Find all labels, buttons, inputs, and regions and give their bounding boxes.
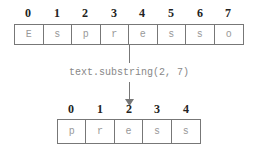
char-cell: s xyxy=(143,120,171,143)
index-label: 1 xyxy=(86,102,114,117)
index-label: 2 xyxy=(115,102,143,117)
source-string-array: E s p r e s s o xyxy=(14,24,244,45)
char-cell: s xyxy=(186,25,215,44)
operation-label: text.substring(2, 7) xyxy=(49,67,209,78)
connector-line xyxy=(129,45,130,63)
char-cell: e xyxy=(115,120,143,143)
index-label: 1 xyxy=(43,6,71,21)
index-label: 6 xyxy=(186,6,214,21)
char-cell: E xyxy=(15,25,44,44)
index-label: 0 xyxy=(57,102,85,117)
char-cell: s xyxy=(172,120,200,143)
char-cell: o xyxy=(215,25,244,44)
char-cell: p xyxy=(58,120,86,143)
char-cell: r xyxy=(86,120,114,143)
index-label: 3 xyxy=(100,6,128,21)
char-cell: s xyxy=(44,25,73,44)
result-string-array: p r e s s xyxy=(57,119,201,144)
index-label: 4 xyxy=(172,102,200,117)
index-label: 7 xyxy=(214,6,242,21)
char-cell: p xyxy=(72,25,101,44)
char-cell: e xyxy=(129,25,158,44)
index-label: 5 xyxy=(157,6,185,21)
index-label: 3 xyxy=(143,102,171,117)
index-label: 4 xyxy=(128,6,156,21)
index-label: 2 xyxy=(71,6,99,21)
char-cell: r xyxy=(101,25,130,44)
index-label: 0 xyxy=(14,6,42,21)
char-cell: s xyxy=(158,25,187,44)
